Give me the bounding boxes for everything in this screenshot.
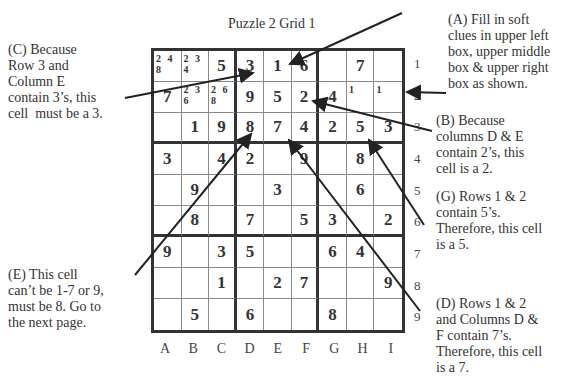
cell-F5 [292,175,320,206]
column-label: C [207,341,235,357]
cell-A7: 9 [154,237,182,268]
note-a: (A) Fill in soft clues in upper left box… [448,12,550,92]
cell-D9: 6 [237,299,265,330]
note-b: (B) Because columns D & E contain 2’s, t… [436,113,524,177]
cell-G1 [319,51,347,82]
cell-H5: 6 [347,175,375,206]
column-label: B [179,341,207,357]
cell-B3: 1 [182,113,210,144]
cell-value: 2 [300,87,309,107]
cell-E1: 1 [264,51,292,82]
cell-E3: 7 [264,113,292,144]
cell-value: 8 [191,210,200,230]
cell-value: 7 [163,87,172,107]
cell-I1 [374,51,402,82]
cell-D6: 7 [237,206,265,237]
cell-E6 [264,206,292,237]
cell-C3: 9 [209,113,237,144]
cell-value: 9 [246,87,255,107]
cell-G8 [319,268,347,299]
cell-value: 5 [246,242,255,262]
cell-H3: 5 [347,113,375,144]
cell-value: 6 [246,305,255,325]
column-label: G [320,341,348,357]
cell-value: 7 [246,210,255,230]
row-label: 4 [414,151,421,167]
cell-A2: 7 [154,82,182,113]
cell-value: 4 [217,149,226,169]
cell-C5 [209,175,237,206]
cell-value: 2 [246,149,255,169]
cell-F6: 5 [292,206,320,237]
cell-I2: 1 [374,82,402,113]
cell-G7: 6 [319,237,347,268]
cell-B6: 8 [182,206,210,237]
cell-value: 7 [273,117,282,137]
cell-G2: 4 [319,82,347,113]
row-label: 2 [414,88,421,104]
cell-B5: 9 [182,175,210,206]
cell-E8: 2 [264,268,292,299]
cell-I4 [374,144,402,175]
cell-value: 3 [246,56,255,76]
cell-C8: 1 [209,268,237,299]
cell-value: 8 [246,117,255,137]
row-label: 3 [414,119,421,135]
row-label: 9 [414,309,421,325]
cell-value: 9 [217,117,226,137]
column-label: I [377,341,405,357]
candidate-notes: 2 3 4 [184,53,203,75]
row-label: 1 [414,56,421,72]
cell-I5 [374,175,402,206]
cell-B9: 5 [182,299,210,330]
cell-F7 [292,237,320,268]
cell-A4: 3 [154,144,182,175]
cell-C9 [209,299,237,330]
cell-value: 7 [356,56,365,76]
note-d: (D) Rows 1 & 2 and Columns D & F contain… [436,296,542,376]
cell-F8: 7 [292,268,320,299]
candidate-notes: 2 3 6 [184,84,203,106]
cell-C2: 2 6 8 [209,82,237,113]
cell-F9 [292,299,320,330]
cell-G4 [319,144,347,175]
cell-I6: 2 [374,206,402,237]
candidate-notes: 1 [349,84,356,95]
cell-D4: 2 [237,144,265,175]
cell-value: 6 [300,56,309,76]
cell-value: 8 [328,305,337,325]
cell-value: 4 [300,117,309,137]
candidate-notes: 2 4 8 [156,53,175,75]
cell-D7: 5 [237,237,265,268]
cell-E9 [264,299,292,330]
cell-value: 9 [191,180,200,200]
cell-C6 [209,206,237,237]
cell-E7 [264,237,292,268]
cell-D3: 8 [237,113,265,144]
cell-value: 1 [273,56,282,76]
cell-H7: 4 [347,237,375,268]
cell-G5 [319,175,347,206]
cell-value: 9 [384,273,393,293]
cell-F3: 4 [292,113,320,144]
cell-value: 5 [217,56,226,76]
cell-value: 3 [328,210,337,230]
column-label: E [264,341,292,357]
cell-G3: 2 [319,113,347,144]
cell-value: 5 [273,87,282,107]
cell-F2: 2 [292,82,320,113]
cell-I9 [374,299,402,330]
cell-A5 [154,175,182,206]
cell-G9: 8 [319,299,347,330]
cell-B7 [182,237,210,268]
cell-A8 [154,268,182,299]
note-c: (C) Because Row 3 and Column E contain 3… [8,42,103,122]
cell-H1: 7 [347,51,375,82]
column-label: D [236,341,264,357]
row-label: 8 [414,278,421,294]
cell-E4 [264,144,292,175]
column-label: H [349,341,377,357]
cell-value: 5 [356,117,365,137]
cell-value: 2 [273,273,282,293]
candidate-notes: 1 [376,84,383,95]
